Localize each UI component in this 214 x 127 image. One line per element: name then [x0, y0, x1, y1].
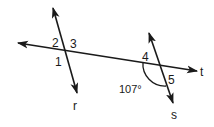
transversal-diagram: 2 3 1 4 5 107° t r s: [0, 0, 214, 127]
diagram-svg: 2 3 1 4 5 107° t r s: [0, 0, 214, 127]
line-label-r: r: [73, 99, 77, 113]
angle-label-2: 2: [52, 36, 59, 50]
line-label-t: t: [200, 65, 204, 79]
line-s: [149, 33, 173, 103]
angle-label-4: 4: [142, 50, 149, 64]
angle-measure-107: 107°: [119, 83, 142, 95]
angle-label-5: 5: [168, 73, 175, 87]
line-t: [18, 43, 197, 71]
angle-label-3: 3: [70, 37, 77, 51]
angle-label-1: 1: [55, 55, 62, 69]
line-label-s: s: [171, 108, 177, 122]
